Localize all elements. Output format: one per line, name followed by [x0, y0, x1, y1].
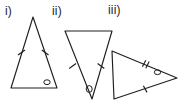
- triangles-diagram: [0, 0, 182, 108]
- triangle-label-i: i): [5, 5, 12, 17]
- triangle-iii: [112, 51, 177, 99]
- triangle-label-iii: iii): [108, 4, 121, 16]
- triangle-label-ii: ii): [52, 5, 62, 17]
- triangle-ii: [65, 31, 112, 99]
- triangle-ii-tick-left: [69, 64, 76, 69]
- triangle-iii-outline: [112, 51, 177, 99]
- triangle-i-outline: [11, 17, 57, 88]
- figure-root: i) ii) iii): [0, 0, 182, 108]
- triangle-i-angle-mark: [44, 80, 50, 85]
- triangle-ii-outline: [65, 31, 112, 99]
- triangle-i: [11, 17, 57, 88]
